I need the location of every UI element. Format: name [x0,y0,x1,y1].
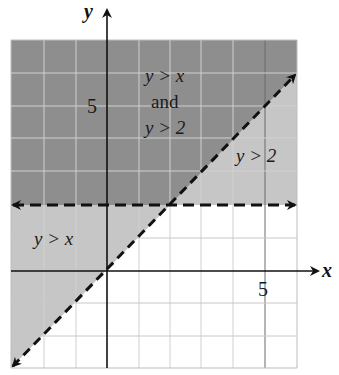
x-axis-label: x [321,259,332,281]
annotation-both-line3: y > 2 [143,117,186,138]
annotation-y-gt-x: y > x [32,228,74,249]
annotation-both-line1: y > x [143,65,185,86]
inequality-graph: y x 5 5 y > x and y > 2 y > 2 y > x [0,0,339,375]
annotation-y-gt-2: y > 2 [234,145,277,166]
y-tick-label-5: 5 [87,95,97,117]
annotation-both-line2: and [151,91,179,112]
y-axis-label: y [82,0,93,23]
x-tick-label-5: 5 [258,278,268,300]
